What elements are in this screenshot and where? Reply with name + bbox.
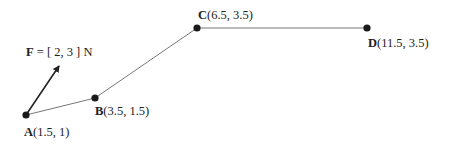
point-d-label: D(11.5, 3.5): [368, 36, 429, 50]
point-b: [91, 94, 98, 101]
segment-b-c: [95, 28, 197, 98]
point-c: [193, 24, 200, 31]
path-diagram: F = [ 2, 3 ] N A(1.5, 1) B(3.5, 1.5) C(6…: [0, 0, 449, 145]
point-b-label: B(3.5, 1.5): [95, 104, 149, 118]
force-label: F = [ 2, 3 ] N: [26, 45, 92, 59]
point-a: [22, 111, 29, 118]
point-a-label: A(1.5, 1): [24, 125, 69, 139]
point-c-label: C(6.5, 3.5): [198, 8, 253, 22]
point-d: [363, 24, 370, 31]
force-value: = [ 2, 3 ] N: [34, 45, 93, 59]
